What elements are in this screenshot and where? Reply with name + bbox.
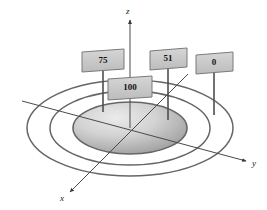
flag-51-label: 51 [164, 53, 174, 63]
flag-100-label: 100 [123, 82, 137, 92]
y-axis-label: y [251, 158, 256, 168]
x-axis-label: x [59, 193, 64, 203]
flag-75-label: 75 [99, 55, 109, 65]
flag-marker-0: 0 [196, 52, 233, 115]
flag-marker-100: 100 [108, 76, 152, 100]
z-axis-label: z [125, 6, 130, 16]
flag-0-label: 0 [212, 57, 217, 67]
figure-container: z y x 75 51 0 100 [0, 0, 267, 210]
coordinate-diagram: z y x 75 51 0 100 [0, 0, 267, 210]
